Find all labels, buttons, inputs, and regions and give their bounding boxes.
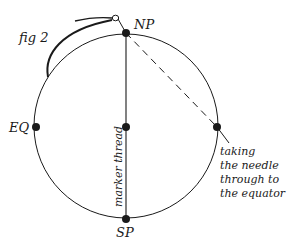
sphere-diagram: fig 2 NP SP EQ marker thread taking the … bbox=[0, 0, 292, 250]
equator-point-left bbox=[32, 123, 40, 131]
needle-path-dashed bbox=[126, 33, 217, 127]
needle-caption-line: through to bbox=[220, 173, 280, 186]
needle-icon bbox=[47, 15, 126, 77]
figure-label: fig 2 bbox=[18, 30, 48, 45]
needle-caption: taking the needle through to the equator bbox=[220, 145, 286, 200]
north-pole-point bbox=[122, 29, 130, 37]
equator-point-right bbox=[213, 123, 221, 131]
south-pole-label: SP bbox=[116, 225, 134, 240]
marker-thread-label: marker thread bbox=[112, 126, 125, 207]
needle-caption-line: the needle bbox=[220, 159, 279, 172]
needle-caption-line: taking bbox=[220, 145, 255, 158]
needle-caption-line: the equator bbox=[220, 187, 286, 200]
south-pole-point bbox=[122, 215, 130, 223]
north-pole-label: NP bbox=[133, 17, 154, 32]
equator-label: EQ bbox=[8, 120, 29, 135]
